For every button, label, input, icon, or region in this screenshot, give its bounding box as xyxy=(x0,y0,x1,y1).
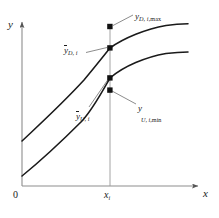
label-y-D-i-max: yD, i,max xyxy=(135,12,161,21)
label-y-D-i-max-subscript: D, i, xyxy=(139,15,150,22)
label-y-U-i-min-qualifier: min xyxy=(152,116,162,123)
diagram-canvas xyxy=(0,0,219,218)
marker-y-D-max xyxy=(107,24,112,29)
label-y-D-i-mean-subscript: D, i xyxy=(68,49,78,56)
figure-container: y x 0 xi yD, i,max yD, i yU, i y U, i,mi… xyxy=(0,0,219,218)
upper-curve-D xyxy=(22,24,188,141)
marker-y-U-min xyxy=(107,87,112,92)
leader-y-D-max-line xyxy=(113,15,133,26)
lower-curve-U xyxy=(22,52,188,176)
label-y-U-i-min: y U, i,min xyxy=(138,104,161,123)
y-axis-label: y xyxy=(8,19,13,30)
leader-y-U-bar-line xyxy=(89,80,108,108)
marker-y-U-bar xyxy=(107,75,112,80)
label-y-D-i-mean: yD, i xyxy=(64,46,78,55)
label-y-U-i-mean: yU, i xyxy=(76,112,90,121)
x-axis-label: x xyxy=(203,188,208,199)
label-y-D-i-max-qualifier: max xyxy=(150,15,161,22)
label-y-U-i-mean-subscript: U, i xyxy=(80,115,90,122)
origin-label: 0 xyxy=(13,190,18,200)
marker-y-D-bar xyxy=(107,45,112,50)
leader-y-D-bar-line xyxy=(86,48,107,53)
leader-y-U-min-line xyxy=(112,91,136,104)
label-y-U-i-min-subscript: U, i, xyxy=(141,116,152,123)
label-y-U-i-min-base: y xyxy=(138,103,142,113)
x-i-tick-label: xi xyxy=(104,190,110,200)
